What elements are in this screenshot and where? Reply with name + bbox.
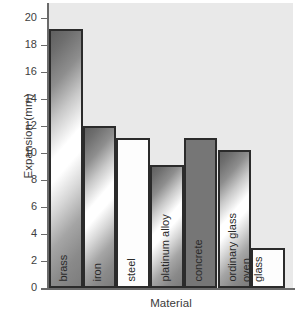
bar-oven-glass: oven glass [251,248,285,289]
bar-steel: steel [116,138,150,288]
bar-category-label: oven glass [241,256,264,282]
bar-category-label: steel [126,259,138,282]
bar-platinum-alloy: platinum alloy [150,165,184,288]
bar-iron: iron [83,126,117,288]
bar-category-label: brass [59,255,71,282]
bar-brass: brass [49,29,83,288]
bar-concrete: concrete [184,138,218,288]
bar-category-label: concrete [194,240,206,282]
y-axis-label: Expansion (mm) [22,56,34,216]
x-axis-label: Material [48,297,294,309]
bar-category-label: ordinary glass [227,214,239,282]
bar-category-label: platinum alloy [160,215,172,282]
bar-chart: 20181614121086420 brassironsteelplatinum… [0,0,302,316]
bars-group: brassironsteelplatinum alloyconcreteordi… [0,0,302,316]
bar-category-label: iron [93,264,105,282]
